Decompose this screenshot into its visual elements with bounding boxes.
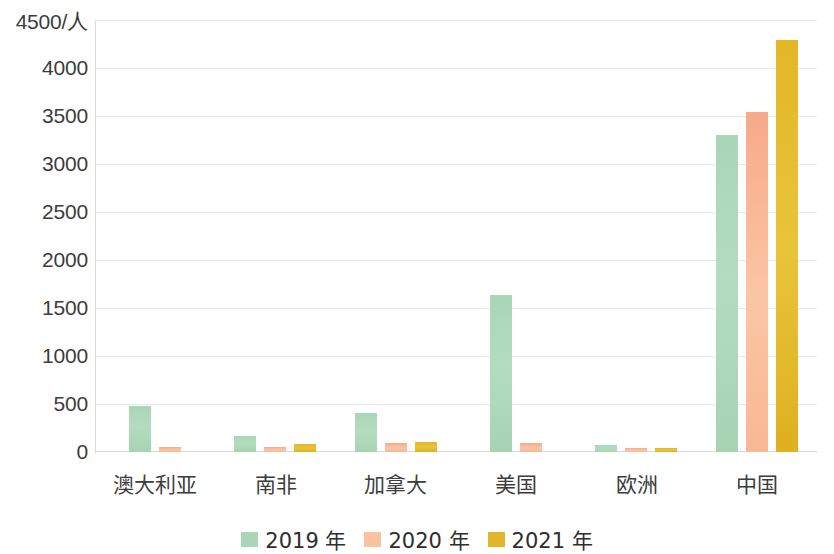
bar-澳大利亚-2019 xyxy=(129,406,151,452)
bar-南非-2019 xyxy=(234,436,256,452)
y-axis-tick-labels: 4500/人40003500300025002000150010005000 xyxy=(0,0,88,554)
chart-legend: 2019 年2020 年2021 年 xyxy=(0,524,834,554)
bar-美国-2019 xyxy=(490,295,512,452)
y-axis-tick-label: 1500 xyxy=(2,296,88,320)
y-axis-tick-label: 0 xyxy=(2,440,88,464)
y-axis-tick-label: 2500 xyxy=(2,200,88,224)
bar-南非-2021 xyxy=(294,444,316,452)
legend-item-2020[interactable]: 2020 年 xyxy=(364,524,469,554)
bar-欧洲-2019 xyxy=(595,445,617,452)
bar-group xyxy=(336,20,456,452)
legend-label: 2021 年 xyxy=(512,524,593,554)
y-axis-tick-label: 2000 xyxy=(2,248,88,272)
y-axis-tick-label: 3000 xyxy=(2,152,88,176)
bar-加拿大-2019 xyxy=(355,413,377,452)
bar-欧洲-2021 xyxy=(655,448,677,452)
legend-swatch-icon xyxy=(241,532,258,547)
legend-item-2019[interactable]: 2019 年 xyxy=(241,524,346,554)
y-axis-tick-label: 500 xyxy=(2,392,88,416)
bar-group xyxy=(215,20,335,452)
y-axis-tick-label: 1000 xyxy=(2,344,88,368)
y-axis-tick-label: 4000 xyxy=(2,56,88,80)
bar-澳大利亚-2020 xyxy=(159,447,181,452)
x-axis-tick-label: 美国 xyxy=(495,468,537,498)
bar-南非-2020 xyxy=(264,447,286,452)
x-axis-tick-label: 澳大利亚 xyxy=(113,468,197,498)
bar-中国-2019 xyxy=(716,135,738,452)
plot-area xyxy=(95,20,817,452)
bar-加拿大-2020 xyxy=(385,443,407,452)
legend-swatch-icon xyxy=(488,532,505,547)
legend-item-2021[interactable]: 2021 年 xyxy=(488,524,593,554)
bar-chart: 4500/人40003500300025002000150010005000 澳… xyxy=(0,0,834,554)
x-axis-tick-label: 中国 xyxy=(736,468,778,498)
bar-group xyxy=(95,20,215,452)
bar-group xyxy=(456,20,576,452)
y-axis-tick-label: 3500 xyxy=(2,104,88,128)
bar-中国-2020 xyxy=(746,112,768,452)
y-axis-tick-label: 4500/人 xyxy=(2,5,88,35)
bar-group xyxy=(697,20,817,452)
x-axis-tick-label: 南非 xyxy=(255,468,297,498)
x-axis-tick-label: 欧洲 xyxy=(616,468,658,498)
bar-group xyxy=(576,20,696,452)
bar-欧洲-2020 xyxy=(625,448,647,452)
bar-加拿大-2021 xyxy=(415,442,437,452)
legend-swatch-icon xyxy=(364,532,381,547)
bar-美国-2020 xyxy=(520,443,542,452)
x-axis-tick-labels: 澳大利亚南非加拿大美国欧洲中国 xyxy=(95,468,817,498)
bar-中国-2021 xyxy=(776,40,798,452)
legend-label: 2020 年 xyxy=(388,524,469,554)
x-axis-tick-label: 加拿大 xyxy=(364,468,427,498)
legend-label: 2019 年 xyxy=(265,524,346,554)
